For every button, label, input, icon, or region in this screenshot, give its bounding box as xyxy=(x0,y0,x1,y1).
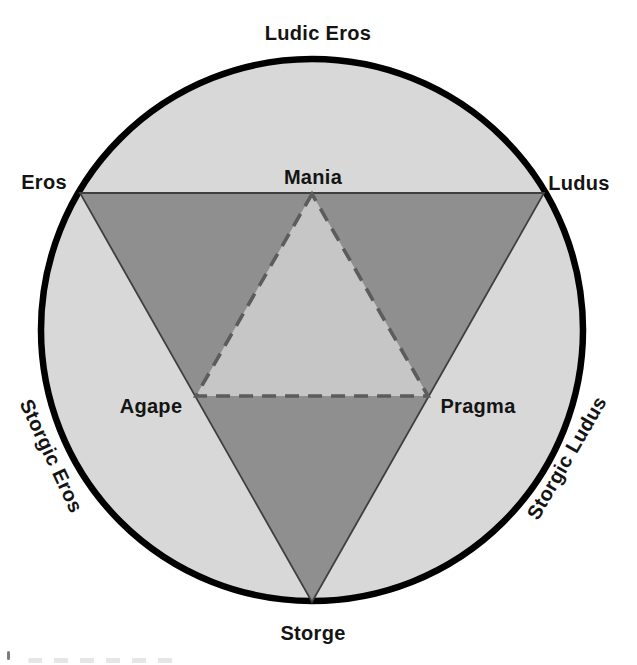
label-agape: Agape xyxy=(120,395,183,418)
label-ludic-eros: Ludic Eros xyxy=(265,22,371,45)
scan-artifact-smudge xyxy=(28,658,180,663)
label-mania: Mania xyxy=(284,166,342,189)
love-styles-diagram xyxy=(0,0,637,665)
label-storge: Storge xyxy=(280,622,345,645)
figure-canvas: Ludic Eros Eros Mania Ludus Agape Pragma… xyxy=(0,0,637,665)
label-ludus: Ludus xyxy=(548,172,610,195)
label-pragma: Pragma xyxy=(440,395,515,418)
label-eros: Eros xyxy=(21,171,67,194)
scan-artifact-tick xyxy=(7,651,10,660)
